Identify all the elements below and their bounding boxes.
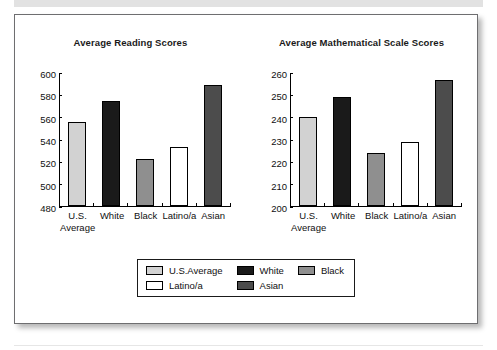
- bar-cell: [427, 73, 461, 206]
- chart-mathematical-scores: Average Mathematical Scale Scores 260250…: [246, 15, 477, 253]
- bar: [299, 117, 317, 206]
- y-tick-mathematical-0: 260: [271, 64, 290, 82]
- bar: [68, 122, 86, 206]
- x-axis-label: Black: [360, 210, 394, 234]
- bar: [367, 153, 385, 206]
- y-tick-label: 200: [271, 203, 290, 214]
- y-tick-reading-1: 580: [40, 86, 59, 104]
- y-tick-label: 480: [40, 203, 59, 214]
- figure-container: Average Reading Scores 60058056054052050…: [14, 14, 478, 324]
- x-axis-label: White: [95, 210, 129, 234]
- y-tick-reading-6: 480: [40, 198, 59, 216]
- legend-label: White: [260, 265, 284, 276]
- y-tick-mathematical-6: 200: [271, 198, 290, 216]
- legend-wrap: U.S.AverageWhiteBlackLatino/aAsian: [15, 259, 477, 297]
- x-axis-line-mathematical: [290, 206, 461, 207]
- x-tick-mark-reading-5: [230, 203, 231, 207]
- chart-legend: U.S.AverageWhiteBlackLatino/aAsian: [137, 259, 355, 297]
- x-axis-label: White: [326, 210, 360, 234]
- bar-cell: [128, 73, 162, 206]
- chart-reading-scores: Average Reading Scores 60058056054052050…: [15, 15, 246, 253]
- bar-cell: [94, 73, 128, 206]
- bar-group-mathematical: [291, 73, 461, 206]
- legend-label: Black: [321, 265, 344, 276]
- bar: [204, 85, 222, 206]
- x-labels-mathematical: U.S. AverageWhiteBlackLatino/aAsian: [291, 210, 461, 234]
- bar: [333, 97, 351, 206]
- legend-label: U.S.Average: [169, 265, 223, 276]
- y-tick-label: 560: [40, 114, 59, 125]
- x-axis-label: Asian: [196, 210, 230, 234]
- x-axis-line-reading: [59, 206, 230, 207]
- legend-label: Latino/a: [169, 280, 203, 291]
- legend-swatch: [146, 266, 163, 275]
- y-tick-mathematical-4: 220: [271, 153, 290, 171]
- x-axis-label: Latino/a: [394, 210, 428, 234]
- legend-item: Asian: [237, 280, 284, 291]
- y-tick-label: 210: [271, 181, 290, 192]
- chart-title-mathematical: Average Mathematical Scale Scores: [246, 37, 477, 49]
- y-tick-label: 240: [271, 114, 290, 125]
- bar: [435, 80, 453, 206]
- bar: [401, 142, 419, 206]
- bar-cell: [291, 73, 325, 206]
- page-bottom-rule: [14, 345, 483, 346]
- page-top-band: [14, 0, 483, 7]
- y-tick-label: 260: [271, 69, 290, 80]
- legend-swatch: [298, 266, 315, 275]
- y-tick-label: 230: [271, 136, 290, 147]
- x-axis-label: Latino/a: [163, 210, 197, 234]
- bar-cell: [325, 73, 359, 206]
- y-tick-reading-0: 600: [40, 64, 59, 82]
- y-tick-mathematical-5: 210: [271, 176, 290, 194]
- bar-cell: [196, 73, 230, 206]
- bar-group-reading: [60, 73, 230, 206]
- chart-title-reading: Average Reading Scores: [15, 37, 246, 49]
- bar-cell: [393, 73, 427, 206]
- legend-item: U.S.Average: [146, 265, 223, 276]
- y-tick-mathematical-1: 250: [271, 86, 290, 104]
- x-labels-reading: U.S. AverageWhiteBlackLatino/aAsian: [60, 210, 230, 234]
- y-tick-reading-4: 520: [40, 153, 59, 171]
- y-tick-label: 250: [271, 91, 290, 102]
- y-tick-mathematical-3: 230: [271, 131, 290, 149]
- x-axis-label: U.S. Average: [60, 210, 95, 234]
- legend-item: Latino/a: [146, 280, 223, 291]
- y-tick-reading-2: 560: [40, 109, 59, 127]
- y-tick-reading-5: 500: [40, 176, 59, 194]
- legend-item: Black: [298, 265, 344, 276]
- bar-cell: [162, 73, 196, 206]
- x-axis-label: U.S. Average: [291, 210, 326, 234]
- y-tick-label: 540: [40, 136, 59, 147]
- y-tick-label: 500: [40, 181, 59, 192]
- legend-swatch: [237, 266, 254, 275]
- bar-cell: [359, 73, 393, 206]
- plot-area-reading: 600580560540520500480: [59, 73, 230, 207]
- bar: [170, 147, 188, 206]
- y-tick-reading-3: 540: [40, 131, 59, 149]
- y-tick-label: 520: [40, 158, 59, 169]
- bar: [102, 101, 120, 206]
- charts-row: Average Reading Scores 60058056054052050…: [15, 15, 477, 253]
- legend-label: Asian: [260, 280, 284, 291]
- plot-area-mathematical: 260250240230220210200: [290, 73, 461, 207]
- x-tick-mark-mathematical-5: [461, 203, 462, 207]
- legend-item-empty: [298, 280, 344, 291]
- y-tick-label: 580: [40, 91, 59, 102]
- legend-item: White: [237, 265, 284, 276]
- y-tick-mathematical-2: 240: [271, 109, 290, 127]
- y-tick-label: 220: [271, 158, 290, 169]
- x-axis-label: Asian: [427, 210, 461, 234]
- bar-cell: [60, 73, 94, 206]
- x-axis-label: Black: [129, 210, 163, 234]
- legend-swatch: [146, 281, 163, 290]
- y-tick-label: 600: [40, 69, 59, 80]
- legend-swatch: [237, 281, 254, 290]
- bar: [136, 159, 154, 206]
